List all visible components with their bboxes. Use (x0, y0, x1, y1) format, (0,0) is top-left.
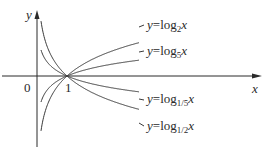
label-log1-2: y=log1/2x (147, 119, 194, 135)
y-axis-arrow-icon (35, 10, 40, 19)
y-axis-label: y (26, 8, 32, 21)
label-log1-5: y=log1/5x (147, 92, 194, 108)
x-axis-label: x (252, 82, 258, 95)
label-log2: y=log2x (147, 18, 187, 34)
curve-5 (41, 60, 139, 102)
curve-1-5 (41, 50, 139, 92)
curve-1-2 (41, 21, 139, 109)
origin-label: 0 (24, 81, 31, 94)
tick-label-one: 1 (65, 81, 72, 94)
log-functions-plot (0, 0, 271, 148)
curve-2 (41, 43, 139, 131)
label-log5: y=log5x (147, 44, 187, 60)
x-axis-arrow-icon (252, 74, 262, 79)
